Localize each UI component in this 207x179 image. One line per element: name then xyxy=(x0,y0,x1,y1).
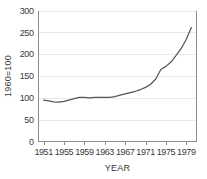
y-axis-tick-labels: 050100150200250300 xyxy=(20,6,34,147)
x-axis-tick-labels: 19511955195919631967197119751979 xyxy=(34,147,196,157)
gridlines xyxy=(39,12,197,121)
line-chart: 050100150200250300 195119551959196319671… xyxy=(0,0,207,179)
x-tick-label: 1955 xyxy=(55,147,74,157)
x-tick-label: 1967 xyxy=(116,147,135,157)
x-tick-label: 1959 xyxy=(75,147,94,157)
y-tick-label: 150 xyxy=(20,71,34,81)
y-tick-label: 0 xyxy=(29,137,34,147)
y-tick-label: 250 xyxy=(20,28,34,38)
x-tick-label: 1963 xyxy=(96,147,115,157)
chart-canvas: 050100150200250300 195119551959196319671… xyxy=(0,0,207,179)
y-tick-label: 50 xyxy=(24,115,34,125)
y-tick-label: 200 xyxy=(20,49,34,59)
x-axis-title: YEAR xyxy=(105,163,131,173)
x-tick-label: 1979 xyxy=(177,147,196,157)
y-axis-title: 1960=100 xyxy=(3,55,13,97)
y-tick-label: 100 xyxy=(20,93,34,103)
x-tick-label: 1975 xyxy=(157,147,176,157)
y-tick-label: 300 xyxy=(20,6,34,16)
data-series-line xyxy=(44,28,192,103)
x-tick-label: 1971 xyxy=(136,147,155,157)
x-tick-label: 1951 xyxy=(34,147,53,157)
